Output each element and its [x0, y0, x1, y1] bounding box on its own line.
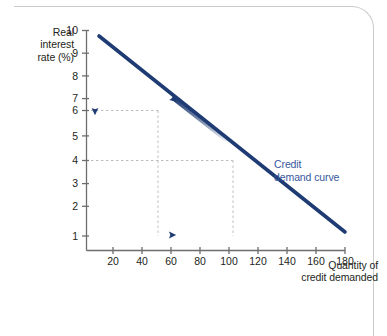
y-axis-title: Real interest rate (%)	[8, 26, 74, 63]
y-tick-label: 3	[72, 177, 78, 189]
y-tick-label: 2	[72, 200, 78, 212]
axes	[87, 31, 346, 251]
credit-demand-curve	[99, 36, 345, 232]
x-tick-label: 20	[107, 255, 119, 267]
y-tick-label: 7	[72, 92, 78, 104]
y-tick-marks	[82, 31, 89, 237]
movement-along-curve-arrow	[172, 98, 228, 142]
y-tick-label: 6	[72, 104, 78, 116]
x-tick-label: 60	[165, 255, 177, 267]
y-tick-label: 4	[72, 154, 78, 166]
x-tick-label: 40	[136, 255, 148, 267]
x-tick-label: 80	[194, 255, 206, 267]
y-tick-label: 8	[72, 70, 78, 82]
x-axis-title: Quantity of credit demanded	[238, 259, 378, 284]
x-tick-label: 100	[220, 255, 238, 267]
y-tick-label: 1	[72, 230, 78, 242]
credit-demand-curve-label: Credit demand curve	[274, 158, 339, 183]
y-tick-label: 5	[72, 130, 78, 142]
